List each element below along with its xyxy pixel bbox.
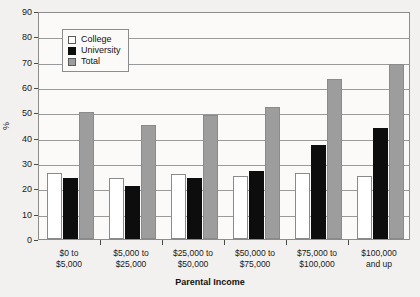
- y-axis-tick-label: 80: [22, 33, 32, 42]
- bar-university: [187, 178, 202, 239]
- x-axis-tick-label-line: and up: [348, 259, 410, 270]
- bar-college: [233, 176, 248, 239]
- x-axis-tick-label-line: $50,000 to: [224, 248, 286, 259]
- x-axis-tick-label: $100,000and up: [348, 248, 410, 269]
- bar-college: [295, 173, 310, 239]
- x-axis-tick-label: $50,000 to$75,000: [224, 248, 286, 269]
- x-axis-title: Parental Income: [0, 277, 420, 287]
- chart-figure: % 0102030405060708090 $0 to$5,000$5,000 …: [0, 0, 420, 297]
- x-axis-tick: [348, 240, 349, 245]
- x-axis-tick-label-line: $5,000 to: [100, 248, 162, 259]
- x-axis-tick-label-line: $25,000: [100, 259, 162, 270]
- x-axis-tick-label-line: $5,000: [38, 259, 100, 270]
- legend-item-university[interactable]: University: [68, 45, 121, 56]
- x-axis-tick-label: $5,000 to$25,000: [100, 248, 162, 269]
- bar-total: [203, 115, 218, 239]
- y-axis-tick-label: 40: [22, 134, 32, 143]
- legend-swatch-university-icon: [68, 47, 76, 55]
- y-axis-tick-label: 60: [22, 84, 32, 93]
- legend-item-college[interactable]: College: [68, 34, 121, 45]
- x-axis-tick-label-line: $100,000: [348, 248, 410, 259]
- gridline: [39, 140, 409, 141]
- x-axis-tick-label-line: $25,000 to: [162, 248, 224, 259]
- x-axis-tick-label-line: $75,000: [224, 259, 286, 270]
- gridline: [39, 190, 409, 191]
- bar-university: [311, 145, 326, 239]
- y-axis: 0102030405060708090: [0, 0, 38, 240]
- bar-university: [249, 171, 264, 239]
- x-axis-tick: [224, 240, 225, 245]
- x-axis-tick-label-line: $100,000: [286, 259, 348, 270]
- gridline: [39, 89, 409, 90]
- bar-total: [327, 79, 342, 239]
- legend-label-university: University: [81, 46, 121, 55]
- x-axis-tick-label: $75,000 to$100,000: [286, 248, 348, 269]
- bar-total: [141, 125, 156, 239]
- y-axis-tick: [34, 240, 38, 241]
- legend-label-total: Total: [81, 57, 100, 66]
- y-axis-tick-label: 90: [22, 8, 32, 17]
- y-axis-tick-label: 50: [22, 109, 32, 118]
- bar-college: [357, 176, 372, 239]
- legend-swatch-total-icon: [68, 58, 76, 66]
- chart-legend: College University Total: [62, 29, 129, 72]
- bar-total: [79, 112, 94, 239]
- x-axis-tick: [162, 240, 163, 245]
- x-axis-tick-label: $25,000 to$50,000: [162, 248, 224, 269]
- x-axis-tick: [100, 240, 101, 245]
- bar-university: [373, 128, 388, 239]
- x-axis-tick-label-line: $50,000: [162, 259, 224, 270]
- y-axis-tick-label: 20: [22, 185, 32, 194]
- gridline: [39, 165, 409, 166]
- gridline: [39, 114, 409, 115]
- gridline: [39, 216, 409, 217]
- y-axis-tick-label: 70: [22, 58, 32, 67]
- bar-college: [109, 178, 124, 239]
- y-axis-tick-label: 30: [22, 160, 32, 169]
- x-axis-tick-label-line: $0 to: [38, 248, 100, 259]
- x-axis-tick-label-line: $75,000 to: [286, 248, 348, 259]
- y-axis-tick-label: 0: [27, 236, 32, 245]
- bar-college: [47, 173, 62, 239]
- bar-total: [389, 64, 404, 239]
- legend-label-college: College: [81, 35, 112, 44]
- bar-total: [265, 107, 280, 239]
- bar-university: [125, 186, 140, 239]
- legend-item-total[interactable]: Total: [68, 56, 121, 67]
- y-axis-tick-label: 10: [22, 210, 32, 219]
- legend-swatch-college-icon: [68, 36, 76, 44]
- bar-university: [63, 178, 78, 239]
- x-axis-tick: [286, 240, 287, 245]
- bar-college: [171, 174, 186, 239]
- x-axis-tick-label: $0 to$5,000: [38, 248, 100, 269]
